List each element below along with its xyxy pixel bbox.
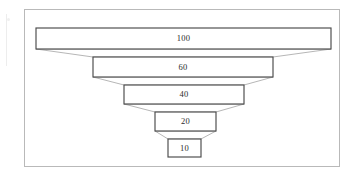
funnel-connector-2-to-3 <box>93 77 273 85</box>
funnel-stage-3[interactable] <box>124 85 244 104</box>
funnel-diagram-canvas: 10060402010 <box>0 0 354 180</box>
funnel-connector-1-to-2 <box>36 49 331 57</box>
funnel-stage-4[interactable] <box>155 112 216 131</box>
funnel-stage-5[interactable] <box>168 139 201 157</box>
funnel-connector-3-to-4 <box>124 104 244 112</box>
funnel-stage-2[interactable] <box>93 57 273 77</box>
funnel-shapes <box>0 0 354 180</box>
funnel-connector-4-to-5 <box>155 131 216 139</box>
funnel-stage-1[interactable] <box>36 28 331 49</box>
